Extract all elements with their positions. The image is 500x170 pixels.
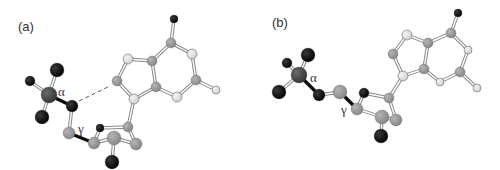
panel-a: O1PO2PO3PPO5'C5'O4'C1'C2'C4'C3'O3'N9C8N7… — [18, 15, 220, 169]
atom-oxygen: O3P — [272, 85, 286, 99]
atom-carbon: C1' — [123, 122, 133, 132]
panel-label: (b) — [272, 15, 288, 30]
atom-oxygen: O3P — [35, 110, 49, 124]
atom-oxygen: O4' — [96, 124, 104, 132]
atom-carbon: C5 — [147, 56, 157, 66]
atom-nitrogen: N7 — [123, 54, 133, 64]
atom-nitrogen: N7 — [402, 30, 412, 40]
atom-nitrogen: N2 — [212, 86, 220, 94]
atom-carbon: C2' — [390, 114, 402, 126]
atom-oxygen: O4' — [359, 88, 369, 98]
hydrogen-bond — [79, 86, 110, 101]
atom-carbon: C2' — [130, 138, 142, 150]
atom-nitrogen: N3 — [436, 78, 444, 86]
atom-carbon: C8 — [388, 49, 398, 59]
atom-carbon: C5' — [63, 127, 75, 139]
atom-carbon: C6 — [446, 28, 456, 38]
torsion-angle-label: γ — [77, 121, 84, 136]
atom-oxygen: O6 — [170, 15, 178, 23]
atom-carbon: C5 — [423, 38, 433, 48]
atoms: O1PO2PO3PPO5'C5'O4'C1'C2'C4'C3'O3'N9C8N7… — [25, 15, 220, 169]
panel-b: O1PO2PO3PPO5'C5'O4'C1'C2'C4'C3'O3'N9C8N7… — [272, 9, 481, 143]
atom-nitrogen: N9 — [398, 71, 408, 81]
atom-carbon: C3' — [375, 110, 389, 124]
atom-oxygen: O5' — [313, 89, 325, 101]
torsion-angle-label: γ — [340, 102, 347, 117]
atom-phosphorus: P — [41, 87, 57, 103]
atom-oxygen: O1P — [50, 63, 64, 77]
atom-carbon: C8 — [112, 76, 122, 86]
atom-carbon: C4' — [351, 103, 363, 115]
torsion-angle-label: α — [58, 84, 65, 99]
atom-carbon: C4 — [419, 64, 429, 74]
molecular-figure: O1PO2PO3PPO5'C5'O4'C1'C2'C4'C3'O3'N9C8N7… — [0, 0, 500, 170]
atom-carbon: C6 — [166, 38, 176, 48]
atom-carbon: C2 — [191, 75, 201, 85]
atom-oxygen: O2P — [282, 58, 292, 68]
atom-nitrogen: N1 — [187, 49, 197, 59]
panel-label: (a) — [18, 19, 34, 34]
atom-carbon: C3' — [107, 131, 121, 145]
atom-phosphorus: P — [291, 67, 307, 83]
atom-oxygen: O5' — [66, 100, 78, 112]
atom-carbon: C2 — [455, 67, 465, 77]
atom-oxygen: O3' — [374, 129, 388, 143]
atom-carbon: C4' — [88, 137, 100, 149]
atom-nitrogen: N9 — [129, 94, 139, 104]
atom-carbon: C4 — [151, 82, 161, 92]
atom-nitrogen: N1 — [464, 46, 472, 54]
atom-oxygen: O6 — [454, 9, 462, 17]
atom-nitrogen: N2 — [473, 84, 481, 92]
atom-carbon: C1' — [384, 93, 394, 103]
atom-carbon: C5' — [333, 85, 347, 99]
atom-oxygen: O1P — [301, 48, 315, 62]
atom-oxygen: O2P — [25, 76, 35, 86]
atom-nitrogen: N3 — [172, 92, 182, 102]
torsion-angle-label: α — [310, 70, 317, 85]
atom-oxygen: O3' — [105, 155, 119, 169]
